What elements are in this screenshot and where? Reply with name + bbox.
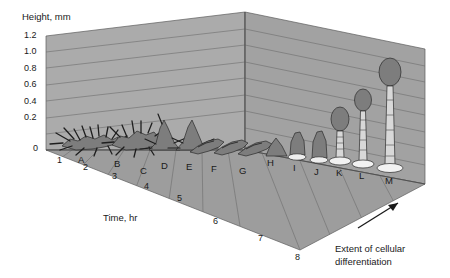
- stage-label-D: D: [161, 161, 168, 171]
- y-tick-1.2: 1.2: [24, 31, 37, 40]
- y-tick-1.0: 1.0: [24, 47, 37, 56]
- plot-3d-scene: [0, 0, 450, 278]
- y-tick-0.4: 0.4: [24, 97, 37, 106]
- differentiation-annotation-line2: differentiation: [335, 256, 392, 268]
- stage-label-I: I: [293, 163, 296, 173]
- stage-label-A: A: [78, 155, 84, 165]
- x-tick-7: 7: [258, 234, 263, 243]
- x-tick-3: 3: [112, 172, 117, 181]
- x-tick-5: 5: [177, 194, 182, 203]
- stage-label-H: H: [267, 158, 274, 168]
- stage-label-F: F: [211, 164, 217, 174]
- development-diagram: Height, mm 1.2 1.0 0.8 0.6 0.4 0.2 0 1 2…: [0, 0, 450, 278]
- stage-label-L: L: [359, 171, 364, 181]
- x-tick-8: 8: [295, 253, 300, 262]
- y-tick-0: 0: [33, 144, 38, 153]
- stage-label-M: M: [385, 176, 393, 186]
- stage-label-B: B: [114, 159, 120, 169]
- stage-label-C: C: [140, 166, 147, 176]
- back-wall: [46, 12, 245, 150]
- stage-label-G: G: [239, 166, 246, 176]
- y-tick-0.8: 0.8: [24, 64, 37, 73]
- x-tick-1: 1: [57, 156, 62, 165]
- y-tick-0.2: 0.2: [24, 113, 37, 122]
- y-axis-title: Height, mm: [22, 12, 71, 22]
- stage-label-E: E: [186, 162, 192, 172]
- x-tick-4: 4: [144, 182, 149, 191]
- stage-label-K: K: [336, 168, 342, 178]
- stage-label-J: J: [314, 167, 319, 177]
- x-tick-6: 6: [213, 217, 218, 226]
- x-axis-title: Time, hr: [103, 213, 137, 223]
- y-tick-0.6: 0.6: [24, 80, 37, 89]
- differentiation-annotation-line1: Extent of cellular: [335, 243, 405, 255]
